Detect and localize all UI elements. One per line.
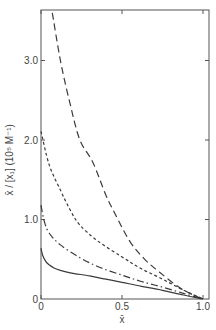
x-tick-label: 1.0: [196, 301, 210, 312]
y-tick-label: 0: [32, 294, 38, 305]
short-dash-curve: [41, 131, 203, 299]
solid-curve: [41, 248, 203, 299]
y-tick-label: 2.0: [24, 135, 38, 146]
x-axis-ticks: 00.51.0: [38, 10, 210, 312]
plot-frame: [41, 10, 209, 299]
long-dash-curve: [52, 13, 203, 299]
y-tick-label: 3.0: [24, 55, 38, 66]
data-series: [41, 13, 203, 299]
y-axis-label: x̄ / [x₁] (10⁵ M⁻¹): [4, 124, 15, 195]
dash-dot-curve: [41, 205, 203, 299]
x-axis-label: x̄: [120, 314, 125, 325]
chart: 00.51.0 01.02.03.0 x̄ x̄ / [x₁] (10⁵ M⁻¹…: [0, 0, 216, 330]
x-tick-label: 0.5: [115, 301, 129, 312]
x-tick-label: 0: [38, 301, 44, 312]
y-tick-label: 1.0: [24, 214, 38, 225]
